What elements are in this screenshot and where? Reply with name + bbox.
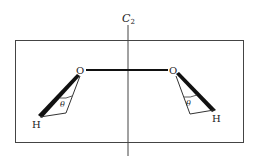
c2-axis-label: C2 [122, 12, 135, 26]
angle-arc-left [60, 96, 72, 98]
theta-label-right: θ [186, 99, 191, 108]
angle-arc-right [184, 95, 197, 97]
hydrogen-left: H [32, 119, 41, 130]
hydrogen-right: H [212, 113, 221, 124]
h2o2-diagram: C2 O O θ H θ H [0, 0, 257, 165]
o-h-bond-left [38, 74, 80, 118]
oxygen-right: O [169, 65, 177, 76]
molecular-plane [16, 41, 244, 143]
theta-label-left: θ [60, 100, 65, 109]
projection-triangle-right [176, 76, 214, 114]
